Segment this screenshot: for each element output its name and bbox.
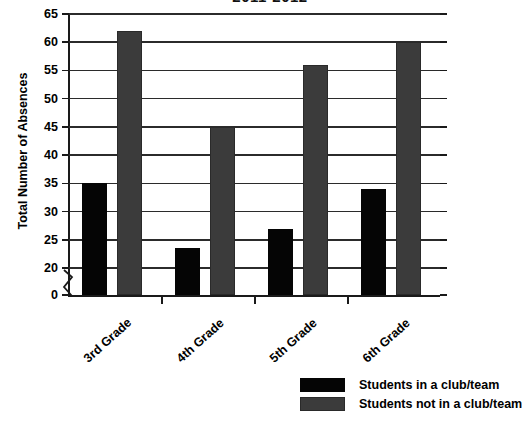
y-axis-tick-label: 60: [26, 36, 58, 49]
x-axis-tick-label: 6th Grade: [360, 316, 413, 365]
y-axis-tick-right: [440, 41, 447, 43]
legend-swatch-club: [300, 378, 345, 392]
y-axis-tick-right: [440, 98, 447, 100]
y-axis-tick: [62, 70, 69, 72]
y-axis-tick-right: [440, 239, 447, 241]
legend-item: Students not in a club/team: [300, 396, 522, 412]
legend-item: Students in a club/team: [300, 377, 522, 393]
x-axis-group-tick: [161, 295, 163, 304]
plot-area: [68, 14, 440, 297]
y-axis-tick-right: [440, 267, 447, 269]
legend-swatch-noclub: [300, 397, 345, 411]
bar-club-3: [268, 229, 293, 296]
bar-noclub-4: [396, 42, 421, 295]
bar-club-1: [82, 183, 107, 295]
legend-label: Students in a club/team: [359, 378, 499, 392]
y-axis-tick-label: 40: [26, 149, 58, 162]
y-axis-tick: [62, 13, 69, 15]
y-axis-tick-right: [440, 126, 447, 128]
y-axis-break-icon: [61, 268, 77, 298]
bar-club-2: [175, 248, 200, 295]
y-axis-tick-label: 35: [26, 177, 58, 190]
bar-noclub-3: [303, 65, 328, 295]
y-axis-tick: [62, 126, 69, 128]
y-axis-tick: [62, 211, 69, 213]
y-axis-tick: [62, 41, 69, 43]
x-axis-group-tick: [254, 295, 256, 304]
x-axis-group-tick: [347, 295, 349, 304]
y-axis-tick-label: 55: [26, 64, 58, 77]
bar-noclub-1: [117, 31, 142, 295]
y-axis-tick: [62, 239, 69, 241]
y-axis-tick-right: [440, 211, 447, 213]
y-axis-tick-label: 0: [26, 289, 58, 302]
y-axis-tick-label: 25: [26, 234, 58, 247]
y-axis-tick-right: [440, 294, 447, 296]
y-axis-tick-label: 30: [26, 206, 58, 219]
legend-label: Students not in a club/team: [359, 397, 522, 411]
gridline: [68, 13, 440, 15]
bar-club-4: [361, 189, 386, 295]
y-axis-tick: [62, 98, 69, 100]
x-axis-tick-label: 4th Grade: [174, 316, 227, 365]
y-axis-tick: [62, 183, 69, 185]
x-axis-tick-label: 3rd Grade: [81, 315, 134, 365]
chart-title: 2011-2012: [185, 0, 355, 2]
y-axis-tick-label: 50: [26, 93, 58, 106]
y-axis-tick-label: 65: [26, 8, 58, 21]
y-axis-tick-right: [440, 70, 447, 72]
chart-legend: Students in a club/teamStudents not in a…: [300, 377, 522, 415]
y-axis-tick-right: [440, 154, 447, 156]
bar-noclub-2: [210, 127, 235, 295]
y-axis-tick-right: [440, 13, 447, 15]
y-axis-tick-label: 45: [26, 121, 58, 134]
x-axis-tick-label: 5th Grade: [267, 316, 320, 365]
chart-figure: 2011-2012 Total Number of Absences 02025…: [0, 0, 530, 424]
y-axis-tick: [62, 154, 69, 156]
y-axis-tick-label: 20: [26, 262, 58, 275]
y-axis-tick-right: [440, 183, 447, 185]
